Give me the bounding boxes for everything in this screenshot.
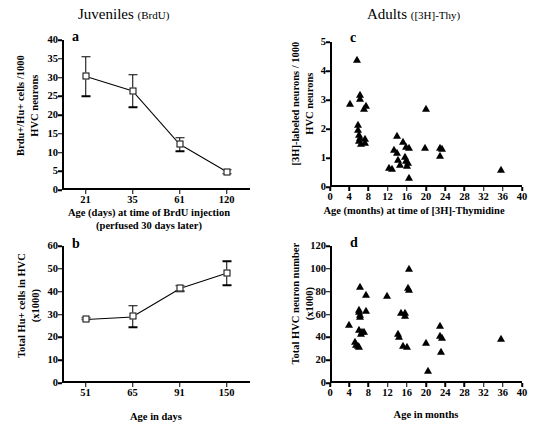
panel-c-data-point (436, 152, 444, 159)
panel-c-x-tick-label: 4 (347, 192, 352, 203)
panel-c-plot-area: c 0123450481216202428323640 (330, 42, 522, 187)
panel-d-x-axis-title: Age in months (330, 408, 522, 421)
panel-a-line-segment (132, 91, 180, 145)
panel-c-data-point (438, 145, 446, 152)
panel-a-error-bar-cap (128, 106, 137, 108)
panel-d-data-point (422, 339, 430, 346)
panel-d-y-tick-mark (326, 268, 330, 270)
panel-c-x-tick-mark (425, 187, 427, 191)
panel-c-x-tick-label: 16 (402, 192, 413, 203)
panel-d-y-tick-mark (326, 314, 330, 316)
panel-b-error-bar-cap (222, 260, 231, 262)
panel-a-y-tick-label: 25 (48, 91, 59, 102)
panel-a-x-axis-title-line1: Age (days) at time of BrdU injection (25, 206, 273, 219)
panel-c-data-point (497, 165, 505, 172)
panel-a-data-point (82, 73, 89, 80)
panel-b-x-tick-mark (179, 383, 181, 387)
panel-b-y-tick-mark (58, 382, 62, 384)
panel-c-y-axis (330, 42, 332, 187)
panel-a-y-tick-mark (58, 133, 62, 135)
panel-c-x-tick-mark (444, 187, 446, 191)
panel-d-x-tick-label: 0 (327, 388, 332, 399)
panel-a-y-tick-mark (58, 114, 62, 116)
panel-c-x-tick-mark (387, 187, 389, 191)
panel-c-y-tick-mark (326, 41, 330, 43)
panel-b-y-tick-label: 50 (48, 264, 59, 275)
panel-d-x-tick-mark (387, 383, 389, 387)
panel-d-x-tick-mark (502, 383, 504, 387)
panel-d-x-tick-label: 4 (347, 388, 352, 399)
panel-d-y-tick-label: 60 (316, 309, 327, 320)
panel-c-y-tick-mark (326, 157, 330, 159)
panel-a-x-axis (62, 188, 250, 190)
panel-a-error-bar-cap (81, 96, 90, 98)
panel-a-x-tick-mark (132, 190, 134, 194)
panel-a-plot-area: a 0510152025303540213561120 (62, 40, 250, 190)
panel-d-data-point (356, 313, 364, 320)
panel-d-x-tick-mark (368, 383, 370, 387)
panel-a-x-tick-mark (226, 190, 228, 194)
panel-c-data-point (356, 95, 364, 102)
panel-c-x-tick-mark (483, 187, 485, 191)
panel-a-data-point (223, 168, 230, 175)
panel-c-data-point (353, 56, 361, 63)
panel-d-y-axis-title-line1: Total HVC neuron number (289, 226, 303, 382)
panel-a-y-tick-mark (58, 189, 62, 191)
panel-a-x-axis-title: Age (days) at time of BrdU injection (pe… (25, 206, 273, 232)
panel-c-x-tick-mark (348, 187, 350, 191)
panel-b-error-bar-cap (128, 305, 137, 307)
panel-c-x-tick-label: 28 (459, 192, 470, 203)
panel-a-y-tick-mark (58, 171, 62, 173)
panel-b-y-axis (62, 246, 64, 383)
panel-c-y-tick-mark (326, 70, 330, 72)
panel-b-data-point (82, 315, 89, 322)
panel-a-x-tick-mark (85, 190, 87, 194)
panel-c-y-axis-title-line1: [3H]-labeled neurons / 1000 (289, 22, 303, 186)
panel-c-data-point (361, 139, 369, 146)
panel-d-data-point (345, 321, 353, 328)
group-title-juveniles-main: Juveniles (78, 6, 134, 22)
panel-b-line-segment (179, 273, 226, 290)
panel-a-y-axis-title-line2: HVC neurons (28, 23, 42, 189)
panel-c-y-axis-title-line2: HVC neurons (303, 22, 317, 186)
panel-d-plot-area: d 0204060801001200481216202428323640 (330, 246, 522, 383)
panel-c-x-tick-mark (406, 187, 408, 191)
panel-d-x-axis-title-line1: Age in months (330, 408, 522, 421)
panel-d-x-tick-label: 16 (402, 388, 413, 399)
panel-b-x-axis-title: Age in days (62, 410, 250, 423)
panel-d-x-tick-label: 40 (517, 388, 528, 399)
panel-c-data-point (360, 105, 368, 112)
panel-a-y-tick-mark (58, 96, 62, 98)
panel-d-x-tick-mark (329, 383, 331, 387)
panel-a-x-tick-label: 120 (219, 195, 235, 206)
panel-b: b 0102030405060516591150 Total Hu+ cells… (0, 232, 273, 432)
panel-d-y-tick-mark (326, 291, 330, 293)
panel-d-data-point (405, 265, 413, 272)
panel-b-y-tick-label: 40 (48, 286, 59, 297)
panel-a-x-tick-label: 61 (174, 195, 185, 206)
panel-d-letter: d (350, 235, 358, 251)
panel-d-x-tick-label: 20 (421, 388, 432, 399)
panel-d-data-point (362, 306, 370, 313)
panel-a-x-tick-label: 21 (80, 195, 91, 206)
panel-a-y-axis-title: Brdu+/Hu+ cells /1000 HVC neurons (14, 23, 41, 189)
panel-d-data-point (383, 292, 391, 299)
panel-c-x-tick-label: 24 (440, 192, 451, 203)
group-title-adults-sub: ([3H]-Thy) (411, 9, 460, 21)
panel-a-data-point (176, 141, 183, 148)
panel-d-data-point (405, 286, 413, 293)
panel-b-x-axis (62, 381, 250, 383)
panel-c-data-point (405, 143, 413, 150)
group-title-adults-main: Adults (367, 6, 407, 22)
panel-a-error-bar-cap (175, 150, 184, 152)
panel-c-x-tick-label: 32 (478, 192, 489, 203)
panel-a-letter: a (72, 29, 79, 45)
panel-d-y-tick-label: 40 (316, 332, 327, 343)
panel-d-data-point (355, 343, 363, 350)
panel-c-x-tick-mark (464, 187, 466, 191)
panel-d-y-tick-mark (326, 337, 330, 339)
panel-d-data-point (395, 333, 403, 340)
panel-c-x-tick-label: 8 (366, 192, 371, 203)
panel-c-x-tick-label: 0 (327, 192, 332, 203)
panel-c-data-point (346, 100, 354, 107)
